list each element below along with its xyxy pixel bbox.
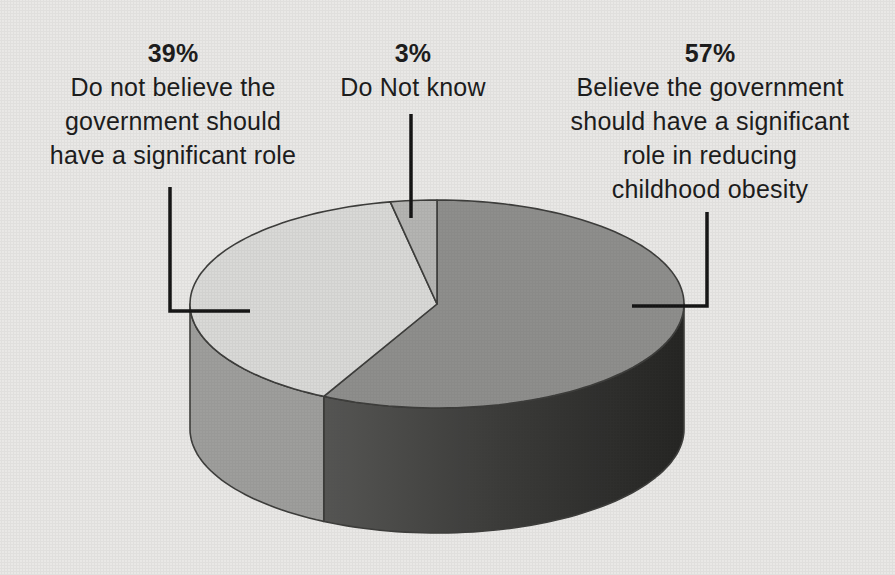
label-block-39pct: 39% Do not believe the government should… xyxy=(13,36,333,172)
pct-value-39: 39% xyxy=(13,36,333,70)
pct-value-3: 3% xyxy=(303,36,523,70)
label-57-line: should have a significant xyxy=(560,104,860,138)
label-block-3pct: 3% Do Not know xyxy=(303,36,523,104)
figure: 39% Do not believe the government should… xyxy=(0,0,895,575)
label-57-line: childhood obesity xyxy=(560,172,860,206)
label-39-line: have a significant role xyxy=(13,138,333,172)
pct-value-57: 57% xyxy=(560,36,860,70)
label-3-line: Do Not know xyxy=(303,70,523,104)
label-39-line: government should xyxy=(13,104,333,138)
label-39-line: Do not believe the xyxy=(13,70,333,104)
label-57-line: role in reducing xyxy=(560,138,860,172)
label-57-line: Believe the government xyxy=(560,70,860,104)
label-block-57pct: 57% Believe the government should have a… xyxy=(560,36,860,206)
